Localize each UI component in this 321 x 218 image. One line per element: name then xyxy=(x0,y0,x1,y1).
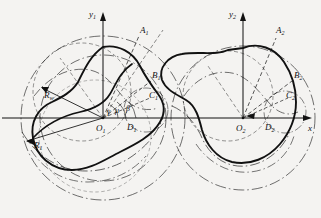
radius-label-r1: R1 xyxy=(33,140,43,151)
conjugate-arc-right-upper xyxy=(184,72,298,114)
point-label-b1: B1 xyxy=(152,70,161,81)
diagram-svg: y1 y2 x O1 O2 A1 B1 C1 D1 A2 B2 C2 D2 xyxy=(0,0,321,218)
y1-axis-arrowhead xyxy=(100,12,106,21)
angle-label-beta: β xyxy=(125,104,130,113)
construction-circle-left-lower xyxy=(39,80,151,192)
ray-o2-upper-left xyxy=(208,66,243,118)
y2-axis-label: y2 xyxy=(228,9,236,20)
origin-label-o2: O2 xyxy=(236,123,246,134)
origin-dot-o1 xyxy=(102,117,105,120)
conjugate-arc-left-upper xyxy=(34,69,158,109)
point-label-d2: D2 xyxy=(264,122,275,133)
ray-o1-upper-left xyxy=(60,58,103,118)
point-label-c2: C2 xyxy=(286,90,295,101)
conjugate-profile-right xyxy=(172,106,290,166)
figure-canvas: y1 y2 x O1 O2 A1 B1 C1 D1 A2 B2 C2 D2 xyxy=(0,0,321,218)
ray-o2-a2 xyxy=(243,38,276,118)
radius-r1-line xyxy=(27,118,103,141)
radius-label-rw: Rw xyxy=(43,90,54,101)
x-axis-arrowhead xyxy=(303,115,312,121)
conjugate-profile-left xyxy=(22,116,163,171)
angle-label-mu: μ xyxy=(114,106,119,115)
angle-arc-beta xyxy=(129,102,136,118)
y2-axis-arrowhead xyxy=(240,12,246,21)
origin-label-o1: O1 xyxy=(96,123,106,134)
point-label-a1: A1 xyxy=(139,25,149,36)
conjugate-profile-left-2 xyxy=(31,150,146,182)
conjugate-profile-right-2 xyxy=(196,136,294,172)
rotor-profile-left xyxy=(32,46,163,170)
y1-axis-label: y1 xyxy=(88,9,96,20)
point-label-d1: D1 xyxy=(126,122,137,133)
rotor-profile-right xyxy=(161,46,296,163)
point-label-a2: A2 xyxy=(275,25,285,36)
point-label-b2: B2 xyxy=(294,70,303,81)
x-axis-label: x xyxy=(307,123,312,133)
origin-dot-o2 xyxy=(242,117,245,120)
